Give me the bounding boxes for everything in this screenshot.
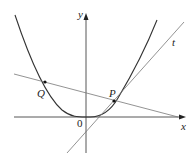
point-p [112,99,115,102]
point-q [43,80,46,83]
x-axis-arrow-icon [179,115,186,120]
tangent-line-t [67,22,184,153]
x-axis-label: x [180,120,186,132]
point-p-label: P [108,87,116,99]
parabola-diagram: y x 0 Q P t [0,0,195,162]
tangent-t-label: t [172,36,176,48]
origin-label: 0 [77,117,83,129]
y-axis-arrow-icon [84,13,89,20]
point-q-label: Q [37,87,45,99]
y-axis-label: y [77,8,83,20]
